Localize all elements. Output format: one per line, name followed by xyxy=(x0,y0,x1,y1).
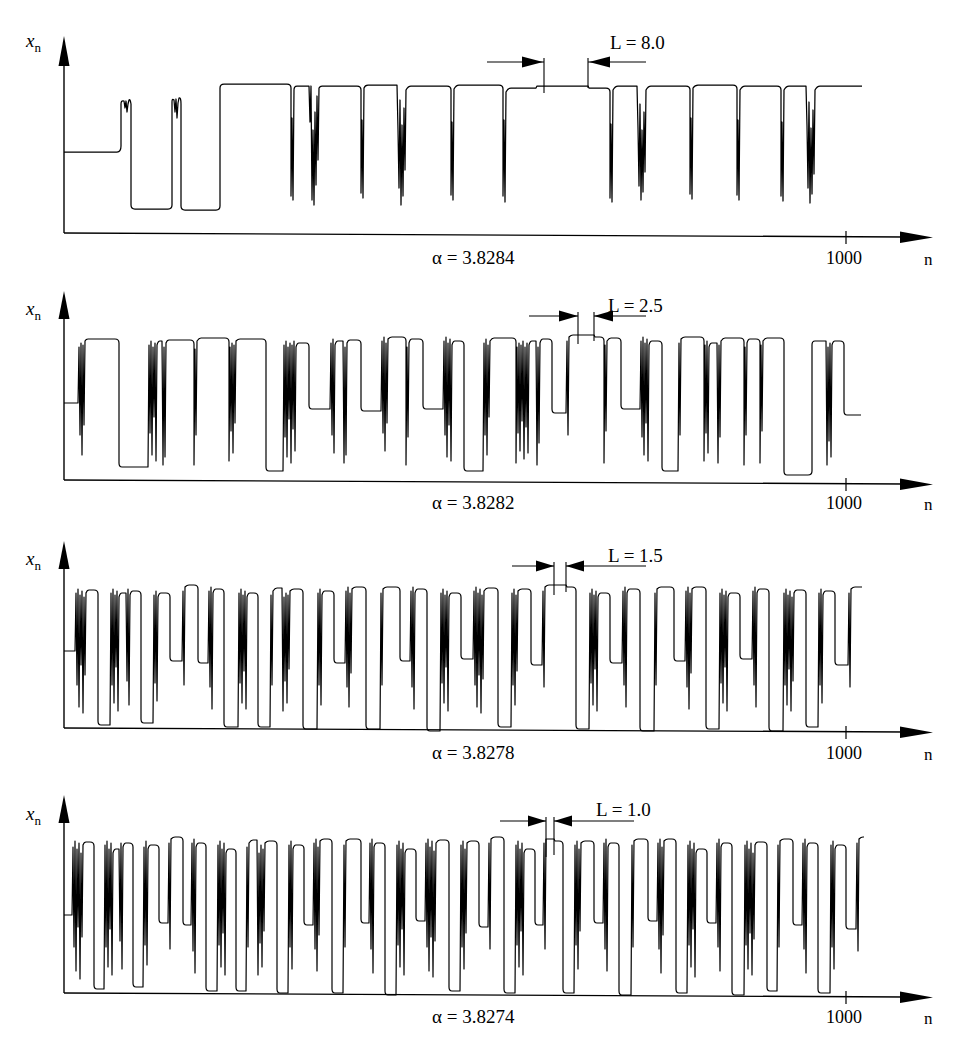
panel-2-plot xyxy=(0,285,969,535)
panel-3-trace xyxy=(64,585,862,731)
panel-1-plot xyxy=(0,0,969,285)
panel-4: xn L = 1.0 α = 3.8274 1000 n xyxy=(0,785,969,1056)
panel-1: xn L = 8.0 α = 3.8284 1000 n xyxy=(0,0,969,285)
panel-1-axes xyxy=(59,36,934,244)
panel-4-plot xyxy=(0,785,969,1056)
panel-2-axes xyxy=(59,291,934,491)
panel-2: xn L = 2.5 α = 3.8282 1000 n xyxy=(0,285,969,535)
panel-4-trace xyxy=(64,837,864,995)
panel-3-plot xyxy=(0,535,969,785)
intermittency-figure: xn L = 8.0 α = 3.8284 1000 n xyxy=(0,0,969,1056)
panel-3-annotation xyxy=(512,561,646,596)
panel-3: xn L = 1.5 α = 3.8278 1000 n xyxy=(0,535,969,785)
panel-2-trace xyxy=(64,335,861,475)
panel-1-trace xyxy=(64,84,862,210)
panel-3-axes xyxy=(59,541,934,739)
